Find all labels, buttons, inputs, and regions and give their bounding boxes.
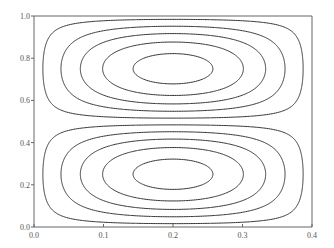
contour-chart: 0.00.10.20.30.4 0.00.20.40.60.81.0 xyxy=(0,0,334,248)
x-tick-label: 0.4 xyxy=(307,231,317,240)
x-tick-label: 0.0 xyxy=(29,231,39,240)
y-tick-label: 0.8 xyxy=(20,54,30,63)
y-axis-ticks: 0.00.20.40.60.81.0 xyxy=(20,12,34,232)
y-tick-label: 1.0 xyxy=(20,12,30,21)
y-tick-label: 0.6 xyxy=(20,96,30,105)
contour-level-0.7 xyxy=(103,42,244,201)
contour-lines xyxy=(43,19,303,223)
contour-level-0.3 xyxy=(61,26,285,217)
y-tick-label: 0.4 xyxy=(20,139,30,148)
x-axis-ticks: 0.00.10.20.30.4 xyxy=(29,224,317,240)
y-tick-label: 0.2 xyxy=(20,181,30,190)
contour-level-0.5 xyxy=(80,34,265,210)
x-tick-label: 0.3 xyxy=(238,231,248,240)
contour-level-0.1 xyxy=(43,19,303,223)
x-tick-label: 0.2 xyxy=(168,231,178,240)
contour-level-0.9 xyxy=(133,54,213,190)
x-tick-label: 0.1 xyxy=(99,231,109,240)
y-tick-label: 0.0 xyxy=(20,223,30,232)
axes xyxy=(34,16,312,227)
